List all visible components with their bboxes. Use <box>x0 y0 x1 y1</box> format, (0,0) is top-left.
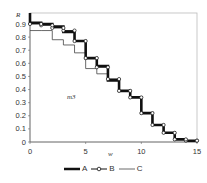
series-b-marker <box>51 24 54 27</box>
y-tick-label: 0.5 <box>16 72 26 81</box>
series-b-line <box>30 24 197 141</box>
legend-label-b: B <box>109 164 114 173</box>
plot-frame <box>30 13 197 142</box>
series-b-marker <box>28 22 31 25</box>
legend-item-a: A <box>64 164 87 173</box>
series-b-marker <box>84 39 87 42</box>
series-b-marker <box>184 138 187 141</box>
y-tick-label: 0.6 <box>16 59 26 68</box>
series-b-marker <box>117 77 120 80</box>
series-b-marker <box>62 26 65 29</box>
x-tick-label: 10 <box>137 147 145 156</box>
series-b-marker <box>162 131 165 134</box>
series-b-marker <box>95 56 98 59</box>
series-b-marker <box>151 123 154 126</box>
series-b-marker <box>195 139 198 142</box>
series-b-marker <box>140 112 143 115</box>
series-b-marker <box>151 112 154 115</box>
series-b-marker <box>95 66 98 69</box>
legend-thin-line-icon <box>119 166 135 172</box>
legend-thick-line-icon <box>64 166 80 172</box>
series-b-marker <box>40 22 43 25</box>
plot-area: 00.10.20.30.40.50.60.70.80.9051015 <box>16 13 202 156</box>
x-axis-label: w <box>108 150 113 158</box>
x-tick-label: 15 <box>193 147 201 156</box>
legend-label-c: C <box>137 164 143 173</box>
series-b-marker <box>84 56 87 59</box>
series-b-marker <box>106 77 109 80</box>
step-chart: 00.10.20.30.40.50.60.70.80.9051015 R w m… <box>0 0 207 183</box>
series-a-line <box>30 13 197 141</box>
series-b-marker <box>73 39 76 42</box>
y-tick-label: 0.3 <box>16 98 26 107</box>
series-b-marker <box>129 89 132 92</box>
series-b-marker <box>117 89 120 92</box>
y-tick-label: 0.4 <box>16 85 26 94</box>
y-axis-label: R <box>15 11 21 19</box>
legend-label-a: A <box>82 164 87 173</box>
legend: A B C <box>64 164 142 173</box>
y-tick-label: 0.1 <box>16 124 26 133</box>
series-b-marker <box>129 96 132 99</box>
series-b-marker <box>173 138 176 141</box>
series-c-line <box>30 31 197 141</box>
series-b-marker <box>162 123 165 126</box>
legend-item-c: C <box>119 164 143 173</box>
y-tick-label: 0.8 <box>16 33 26 42</box>
series-b-marker <box>140 96 143 99</box>
legend-item-b: B <box>91 164 114 173</box>
series-b-marker <box>73 29 76 32</box>
y-tick-label: 0.2 <box>16 111 26 120</box>
x-tick-label: 0 <box>28 147 32 156</box>
y-tick-label: 0 <box>22 138 26 147</box>
x-tick-label: 5 <box>84 147 88 156</box>
series-b-marker <box>106 66 109 69</box>
series-b-marker <box>173 131 176 134</box>
y-tick-label: 0.7 <box>16 46 26 55</box>
y-tick-label: 0.9 <box>16 20 26 29</box>
legend-circle-marker-icon <box>91 166 107 172</box>
annotation-label: m3 <box>67 93 76 101</box>
